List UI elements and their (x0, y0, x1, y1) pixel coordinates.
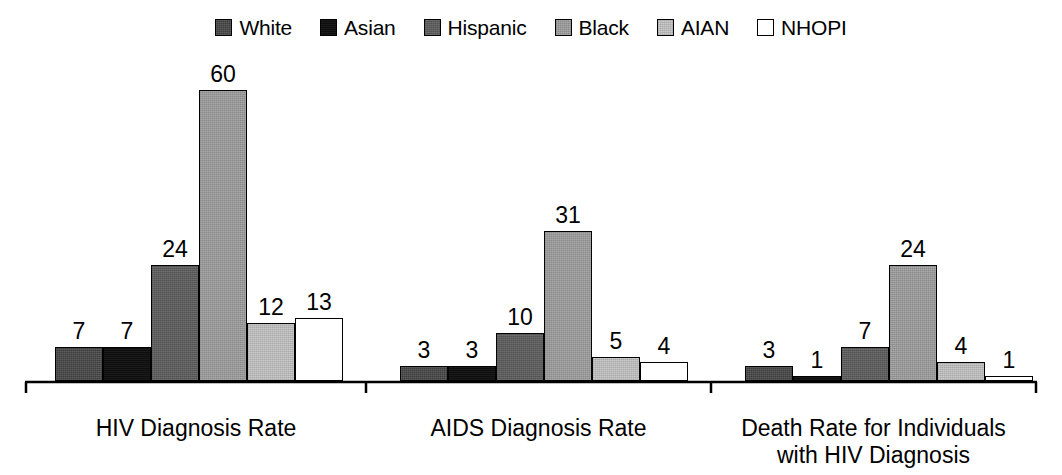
bar-rect (103, 347, 151, 381)
plot-area: 7724601213331031543172441 (0, 0, 1062, 475)
category-label-2: Death Rate for Individuals with HIV Diag… (711, 415, 1036, 469)
bar-white-group-0[interactable]: 7 (55, 347, 103, 381)
bar-value-label: 1 (787, 349, 847, 372)
bar-value-label: 7 (835, 320, 895, 343)
bar-rect (745, 366, 793, 381)
bar-asian-group-1[interactable]: 3 (448, 366, 496, 381)
bar-rect (592, 357, 640, 381)
bar-value-label: 24 (883, 238, 943, 261)
bar-hispanic-group-0[interactable]: 24 (151, 265, 199, 381)
bar-rect (640, 362, 688, 381)
bar-hispanic-group-1[interactable]: 10 (496, 333, 544, 382)
bar-rect (889, 265, 937, 381)
bar-asian-group-2[interactable]: 1 (793, 376, 841, 381)
bar-rect (55, 347, 103, 381)
bar-rect (841, 347, 889, 381)
bar-aian-group-1[interactable]: 5 (592, 357, 640, 381)
bar-nhopi-group-1[interactable]: 4 (640, 362, 688, 381)
category-label-0: HIV Diagnosis Rate (26, 415, 366, 442)
bar-white-group-2[interactable]: 3 (745, 366, 793, 381)
bar-value-label: 10 (490, 306, 550, 329)
bar-value-label: 13 (289, 291, 349, 314)
bar-value-label: 60 (193, 63, 253, 86)
category-label-1: AIDS Diagnosis Rate (366, 415, 711, 442)
bar-asian-group-0[interactable]: 7 (103, 347, 151, 381)
bar-rect (199, 90, 247, 381)
bar-rect (496, 333, 544, 382)
bar-rect (448, 366, 496, 381)
bar-black-group-1[interactable]: 31 (544, 231, 592, 381)
bar-rect (295, 318, 343, 381)
bar-rect (400, 366, 448, 381)
bar-aian-group-0[interactable]: 12 (247, 323, 295, 381)
bar-black-group-0[interactable]: 60 (199, 90, 247, 381)
bar-rect (544, 231, 592, 381)
bar-aian-group-2[interactable]: 4 (937, 362, 985, 381)
bar-value-label: 4 (634, 335, 694, 358)
bar-value-label: 1 (979, 349, 1039, 372)
bar-nhopi-group-0[interactable]: 13 (295, 318, 343, 381)
bar-hispanic-group-2[interactable]: 7 (841, 347, 889, 381)
bar-value-label: 7 (97, 320, 157, 343)
bar-rect (937, 362, 985, 381)
bar-value-label: 3 (442, 339, 502, 362)
bar-chart: WhiteAsianHispanicBlackAIANNHOPI 7724601… (0, 0, 1062, 475)
bar-value-label: 24 (145, 238, 205, 261)
bar-rect (247, 323, 295, 381)
bar-black-group-2[interactable]: 24 (889, 265, 937, 381)
bar-rect (985, 376, 1033, 381)
bar-nhopi-group-2[interactable]: 1 (985, 376, 1033, 381)
bar-white-group-1[interactable]: 3 (400, 366, 448, 381)
bar-value-label: 31 (538, 204, 598, 227)
bar-rect (793, 376, 841, 381)
bar-rect (151, 265, 199, 381)
